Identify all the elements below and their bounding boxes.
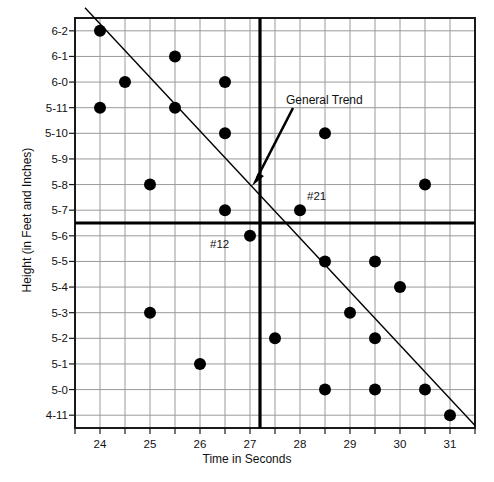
x-axis-tick-label: 26 (194, 438, 207, 450)
x-axis-tick-label: 30 (394, 438, 407, 450)
x-axis-title: Time in Seconds (0, 452, 494, 466)
scatter-plot-figure: 6-26-16-05-115-105-95-85-75-65-55-45-35-… (0, 0, 494, 482)
data-point-label: #12 (210, 238, 229, 250)
y-axis-tick-label: 5-0 (18, 384, 68, 396)
data-point (419, 384, 431, 396)
data-point (419, 179, 431, 191)
y-axis-tick-label: 4-11 (18, 409, 68, 421)
general-trend-arrow (252, 108, 293, 186)
x-axis-tick-label: 24 (94, 438, 107, 450)
y-axis-tick-label: 6-1 (18, 50, 68, 62)
data-point (219, 127, 231, 139)
plot-canvas (0, 0, 494, 482)
data-point (369, 255, 381, 267)
data-point (169, 102, 181, 114)
x-axis-tick-label: 25 (144, 438, 157, 450)
data-point (169, 50, 181, 62)
data-point (294, 204, 306, 216)
y-axis-tick-label: 6-2 (18, 25, 68, 37)
data-point (144, 307, 156, 319)
data-point (369, 332, 381, 344)
data-point (144, 179, 156, 191)
data-point (94, 25, 106, 37)
data-point (219, 76, 231, 88)
y-axis-tick-label: 5-11 (18, 102, 68, 114)
data-point (369, 384, 381, 396)
data-point (344, 307, 356, 319)
data-point (119, 76, 131, 88)
data-point (319, 384, 331, 396)
data-point-label: #21 (307, 190, 326, 202)
data-point (219, 204, 231, 216)
y-axis-tick-label: 6-0 (18, 76, 68, 88)
x-axis-tick-label: 31 (444, 438, 457, 450)
data-point (194, 358, 206, 370)
y-axis-tick-label: 5-1 (18, 358, 68, 370)
data-point (394, 281, 406, 293)
tick-marks (69, 31, 475, 434)
y-axis-title: Height (in Feet and Inches) (20, 120, 34, 320)
data-point (319, 127, 331, 139)
x-axis-tick-label: 28 (294, 438, 307, 450)
y-axis-tick-label: 5-2 (18, 332, 68, 344)
data-point (269, 332, 281, 344)
data-point (94, 102, 106, 114)
data-point (319, 255, 331, 267)
trend-line (85, 8, 475, 426)
data-point (444, 409, 456, 421)
x-axis-tick-label: 27 (244, 438, 257, 450)
x-axis-tick-label: 29 (344, 438, 357, 450)
general-trend-label: General Trend (286, 93, 363, 107)
data-point (244, 230, 256, 242)
